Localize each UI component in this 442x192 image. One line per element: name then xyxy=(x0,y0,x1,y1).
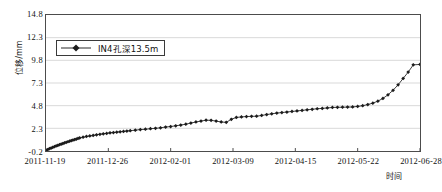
data-point-marker xyxy=(184,122,188,126)
data-point-marker xyxy=(331,106,335,110)
data-point-marker xyxy=(418,63,420,67)
data-point-marker xyxy=(122,130,126,134)
y-tick-label: -0.2 xyxy=(3,148,43,156)
data-point-marker xyxy=(108,131,112,135)
data-point-marker xyxy=(133,128,137,132)
data-point-marker xyxy=(275,111,279,115)
data-point-marker xyxy=(260,114,264,118)
data-point-marker xyxy=(169,125,173,129)
data-point-marker xyxy=(240,115,244,119)
data-point-marker xyxy=(371,101,375,105)
data-point-marker xyxy=(219,120,223,124)
y-tick-label: 9.8 xyxy=(3,56,43,64)
data-point-marker xyxy=(351,105,355,109)
data-point-marker xyxy=(341,105,345,109)
data-point-marker xyxy=(115,130,119,134)
data-point-marker xyxy=(179,123,183,127)
data-point-marker xyxy=(95,133,99,137)
data-point-marker xyxy=(144,127,148,131)
plot-area xyxy=(45,14,421,152)
data-point-marker xyxy=(376,99,380,103)
x-tick-label: 2011-12-26 xyxy=(87,156,128,166)
x-tick-label: 2012-03-09 xyxy=(212,156,254,166)
legend-marker-icon xyxy=(61,43,91,53)
data-point-marker xyxy=(346,105,350,109)
data-point-marker xyxy=(336,105,340,109)
data-point-marker xyxy=(98,132,102,136)
y-tick-label: 12.3 xyxy=(3,33,43,41)
data-point-marker xyxy=(164,125,168,129)
x-tick-label: 2012-05-22 xyxy=(337,156,379,166)
data-point-marker xyxy=(315,107,319,111)
data-point-marker xyxy=(111,131,115,135)
data-point-marker xyxy=(85,135,89,139)
x-axis-title: 时间 xyxy=(386,170,402,181)
data-point-marker xyxy=(128,129,132,133)
data-point-marker xyxy=(310,107,314,111)
data-point-marker xyxy=(189,121,193,125)
x-tick-label: 2012-02-01 xyxy=(149,156,191,166)
legend[interactable]: IN4孔深13.5m xyxy=(56,40,165,56)
data-point-marker xyxy=(366,103,370,107)
data-point-marker xyxy=(245,115,249,119)
data-point-marker xyxy=(194,120,198,124)
data-point-marker xyxy=(234,116,238,120)
data-point-marker xyxy=(209,118,213,122)
data-point-marker xyxy=(320,107,324,111)
data-point-marker xyxy=(285,110,289,114)
legend-label: IN4孔深13.5m xyxy=(98,42,158,54)
data-point-marker xyxy=(265,113,269,117)
data-point-marker xyxy=(204,118,208,122)
y-tick-label: 2.3 xyxy=(3,125,43,133)
data-point-marker xyxy=(101,132,105,136)
data-point-marker xyxy=(105,132,109,136)
series-line xyxy=(46,64,420,150)
data-point-marker xyxy=(290,110,294,114)
data-point-marker xyxy=(270,112,274,116)
data-point-marker xyxy=(305,108,309,112)
data-point-marker xyxy=(88,134,92,138)
data-point-marker xyxy=(159,126,163,130)
data-point-marker xyxy=(81,135,85,139)
data-point-marker xyxy=(125,129,129,133)
data-point-marker xyxy=(138,128,142,132)
data-point-marker xyxy=(214,119,218,123)
data-point-marker xyxy=(280,111,284,115)
data-point-marker xyxy=(250,114,254,118)
data-point-marker xyxy=(361,104,365,108)
data-point-marker xyxy=(300,109,304,113)
x-axis-tick-labels: 2011-11-192011-12-262012-02-012012-03-09… xyxy=(0,156,435,170)
data-point-marker xyxy=(199,119,203,123)
data-point-marker xyxy=(325,106,329,110)
data-point-marker xyxy=(255,114,259,118)
data-point-marker xyxy=(356,105,360,109)
x-tick-label: 2012-06-28 xyxy=(400,156,442,166)
data-point-marker xyxy=(91,134,95,138)
data-point-marker xyxy=(295,109,299,113)
x-tick-label: 2011-11-19 xyxy=(24,156,65,166)
data-point-marker xyxy=(154,126,158,130)
data-point-marker xyxy=(174,124,178,128)
y-tick-label: 4.8 xyxy=(3,102,43,110)
y-tick-label: 7.3 xyxy=(3,79,43,87)
x-tick-label: 2012-04-15 xyxy=(275,156,317,166)
data-point-marker xyxy=(118,130,122,134)
data-series-layer xyxy=(46,15,420,151)
y-tick-label: 14.8 xyxy=(3,10,43,18)
data-point-marker xyxy=(149,127,153,131)
